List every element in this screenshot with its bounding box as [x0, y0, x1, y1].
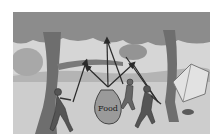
food-bag-label: Food	[98, 104, 118, 113]
tree-canopy	[13, 12, 210, 46]
illustration: Food	[13, 12, 210, 134]
campfire	[182, 109, 194, 115]
food-bag: Food	[95, 90, 122, 124]
scene-svg: Food	[13, 12, 210, 134]
